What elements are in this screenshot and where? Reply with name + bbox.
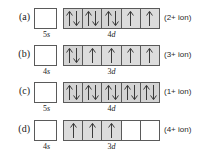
d-orbital-cell	[102, 9, 121, 28]
spin-up-arrow-icon	[85, 10, 92, 27]
row-letter-label: (a)	[6, 12, 30, 22]
d-orbital-group: 4d	[63, 82, 160, 113]
row-letter-label: (b)	[6, 49, 30, 59]
spin-down-arrow-icon	[73, 47, 80, 64]
diagram-row-b: (b)4s3d(3+ ion)	[0, 37, 212, 75]
diagram-row-a: (a)5s4d(2+ ion)	[0, 0, 212, 38]
row-letter-label: (c)	[6, 86, 30, 96]
d-orbital-cell	[64, 46, 83, 65]
spin-up-arrow-icon	[124, 84, 131, 101]
electron-arrows	[108, 122, 115, 139]
s-orbital-group: 4s	[34, 45, 59, 76]
spin-up-arrow-icon	[66, 10, 73, 27]
d-orbital-cell	[83, 46, 102, 65]
d-orbital-cell	[102, 83, 121, 102]
electron-arrows	[66, 84, 80, 101]
d-orbital-grid	[63, 82, 160, 103]
electron-arrows	[105, 84, 119, 101]
orbital-diagram-figure: (a)5s4d(2+ ion)(b)4s3d(3+ ion)(c)5s4d(1+…	[0, 0, 212, 159]
spin-up-arrow-icon	[66, 47, 73, 64]
electron-arrows	[66, 10, 80, 27]
s-orbital-box	[34, 82, 57, 103]
spin-up-arrow-icon	[89, 122, 96, 139]
diagram-row-c: (c)5s4d(1+ ion)	[0, 74, 212, 112]
d-orbital-group: 3d	[63, 120, 160, 151]
electron-arrows	[89, 122, 96, 139]
d-orbital-label-letter: d	[112, 142, 116, 151]
electron-arrows	[127, 47, 134, 64]
d-orbital-cell	[141, 9, 159, 28]
spin-up-arrow-icon	[108, 122, 115, 139]
electron-arrows	[89, 47, 96, 64]
spin-down-arrow-icon	[150, 84, 157, 101]
ion-charge-label: (1+ ion)	[164, 87, 191, 97]
d-orbital-label: 3d	[63, 142, 160, 151]
electron-arrows	[146, 10, 153, 27]
electron-arrows	[70, 122, 77, 139]
d-orbital-cell	[83, 83, 102, 102]
d-orbital-cell	[122, 9, 141, 28]
spin-up-arrow-icon	[105, 10, 112, 27]
electron-arrows	[143, 84, 157, 101]
spin-down-arrow-icon	[112, 84, 119, 101]
spin-down-arrow-icon	[92, 10, 99, 27]
electron-arrows	[146, 47, 153, 64]
d-orbital-cell	[83, 121, 102, 140]
d-orbital-cell	[83, 9, 102, 28]
electron-arrows	[108, 47, 115, 64]
spin-down-arrow-icon	[73, 10, 80, 27]
s-orbital-box	[34, 120, 57, 141]
d-orbital-group: 3d	[63, 45, 160, 76]
spin-up-arrow-icon	[85, 84, 92, 101]
d-orbital-cell	[122, 83, 141, 102]
d-orbital-cell	[64, 121, 83, 140]
diagram-row-d: (d)4s3d(4+ ion)	[0, 112, 212, 150]
d-orbital-grid	[63, 120, 160, 141]
electron-arrows	[124, 84, 138, 101]
ion-charge-label: (2+ ion)	[164, 13, 191, 23]
s-orbital-box	[34, 8, 57, 29]
d-orbital-grid	[63, 8, 160, 29]
d-orbital-cell	[141, 121, 159, 140]
ion-charge-label: (3+ ion)	[164, 50, 191, 60]
d-orbital-cell	[64, 83, 83, 102]
s-orbital-label: 4s	[34, 142, 59, 151]
spin-up-arrow-icon	[127, 10, 134, 27]
s-orbital-group: 5s	[34, 82, 59, 113]
spin-up-arrow-icon	[146, 47, 153, 64]
d-orbital-cell	[102, 46, 121, 65]
electron-arrows	[85, 84, 99, 101]
spin-down-arrow-icon	[73, 84, 80, 101]
ion-charge-label: (4+ ion)	[164, 125, 191, 135]
electron-arrows	[127, 10, 134, 27]
d-orbital-cell	[122, 46, 141, 65]
spin-up-arrow-icon	[105, 84, 112, 101]
d-orbital-cell	[141, 46, 159, 65]
d-orbital-cell	[64, 9, 83, 28]
spin-down-arrow-icon	[92, 84, 99, 101]
spin-up-arrow-icon	[70, 122, 77, 139]
spin-up-arrow-icon	[127, 47, 134, 64]
d-orbital-cell	[122, 121, 141, 140]
spin-up-arrow-icon	[146, 10, 153, 27]
spin-up-arrow-icon	[66, 84, 73, 101]
s-orbital-label-letter: s	[47, 142, 50, 151]
electron-arrows	[105, 10, 119, 27]
spin-down-arrow-icon	[131, 84, 138, 101]
spin-up-arrow-icon	[108, 47, 115, 64]
d-orbital-cell	[102, 121, 121, 140]
spin-up-arrow-icon	[143, 84, 150, 101]
spin-down-arrow-icon	[112, 10, 119, 27]
electron-arrows	[85, 10, 99, 27]
row-letter-label: (d)	[6, 124, 30, 134]
s-orbital-box	[34, 45, 57, 66]
s-orbital-group: 5s	[34, 8, 59, 39]
d-orbital-cell	[141, 83, 159, 102]
spin-up-arrow-icon	[89, 47, 96, 64]
s-orbital-group: 4s	[34, 120, 59, 151]
d-orbital-grid	[63, 45, 160, 66]
electron-arrows	[66, 47, 80, 64]
d-orbital-group: 4d	[63, 8, 160, 39]
